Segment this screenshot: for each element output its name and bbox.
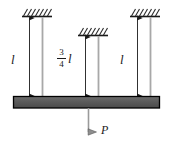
fraction: 3 4 xyxy=(57,48,66,70)
middle-support-hatching xyxy=(80,28,108,35)
fraction-length-symbol: l xyxy=(68,51,72,67)
load-label: P xyxy=(101,124,108,136)
left-support-hatching xyxy=(24,9,52,16)
left-support xyxy=(22,9,52,17)
left-length-label: l xyxy=(11,53,15,66)
middle-length-label: 3 4 l xyxy=(57,48,72,70)
beam-suspension-diagram xyxy=(0,0,174,142)
right-support-hatching xyxy=(132,9,160,16)
fraction-numerator: 3 xyxy=(58,48,65,57)
right-length-label: l xyxy=(120,53,124,66)
fraction-denominator: 4 xyxy=(58,60,65,69)
middle-support xyxy=(78,28,108,36)
right-support xyxy=(130,9,160,17)
beam xyxy=(14,97,160,109)
